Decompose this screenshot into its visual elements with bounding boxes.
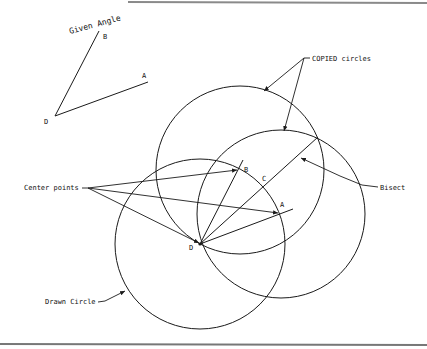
drawn-circle-callout: Drawn Circle xyxy=(45,291,125,306)
point-a-label: A xyxy=(280,201,285,209)
given-angle-label: Given Angle xyxy=(68,13,122,35)
drawn-circle-arrow xyxy=(98,291,125,302)
bisect-arrow xyxy=(301,158,378,187)
construction-diagram: Given Angle B A D D B C A COPIED circles… xyxy=(0,0,427,349)
bisect-callout: Bisect xyxy=(301,158,405,192)
center-points-label: Center points xyxy=(24,184,79,192)
given-ray-b xyxy=(55,31,99,116)
ray-db xyxy=(200,160,243,244)
center-points-arrow-d xyxy=(88,188,199,243)
copied-circles-arrow-2 xyxy=(284,58,304,131)
point-c-label: C xyxy=(262,175,266,183)
point-b-label: B xyxy=(244,166,248,174)
vertex-d-label: D xyxy=(189,244,193,252)
ray-da xyxy=(200,209,293,244)
center-points-arrow-a xyxy=(88,188,278,213)
given-vertex-label: D xyxy=(44,118,48,126)
copied-circles-arrow-1 xyxy=(264,58,304,91)
given-point-b-label: B xyxy=(103,33,107,41)
bottom-frame-line xyxy=(0,344,427,345)
copied-circles-label: COPIED circles xyxy=(312,55,371,63)
given-point-a-label: A xyxy=(142,72,147,80)
given-angle: Given Angle B A D xyxy=(44,13,148,126)
constructed-angle: D B C A xyxy=(189,137,318,252)
bisect-label: Bisect xyxy=(380,184,405,192)
copied-circles-callout: COPIED circles xyxy=(264,55,371,131)
given-ray-a xyxy=(55,82,148,116)
drawn-circle-label: Drawn Circle xyxy=(45,298,96,306)
top-frame-line xyxy=(128,2,427,3)
center-points-callout: Center points xyxy=(24,170,278,243)
center-points-arrow-b xyxy=(88,170,237,188)
